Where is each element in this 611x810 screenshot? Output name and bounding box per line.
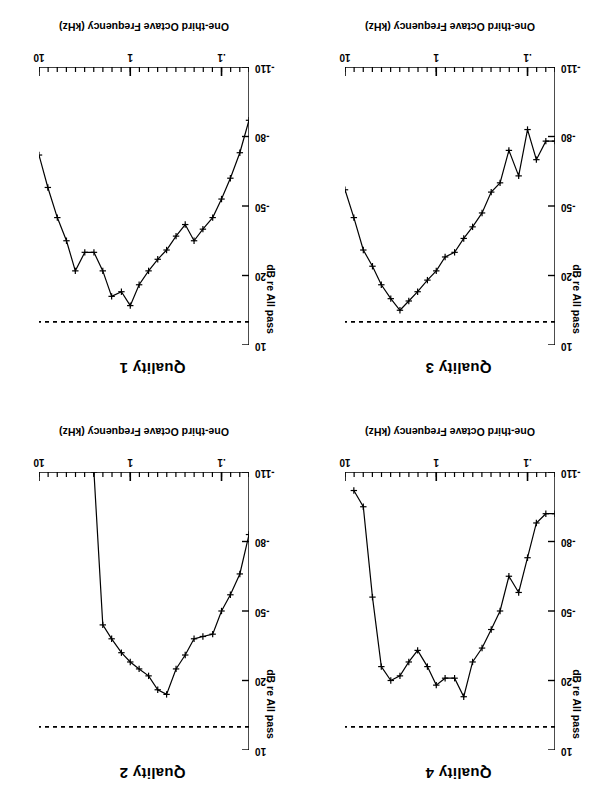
x-tick-label: 1 <box>416 457 456 468</box>
y-tick-label: 10 <box>255 341 305 352</box>
y-tick-label: -50 <box>255 202 305 213</box>
y-tick-label: 10 <box>255 746 305 757</box>
chart-panel-quality-1: Quality 1 dB re All pass One-third Octav… <box>0 0 305 405</box>
x-tick-label: 10 <box>325 52 365 63</box>
x-tick-label: 10 <box>325 457 365 468</box>
y-axis-label-quality-2: dB re All pass <box>265 624 277 784</box>
x-axis-label-quality-4: One-third Octave Frequency (kHz) <box>345 426 555 438</box>
y-axis-label-quality-4: dB re All pass <box>571 624 583 784</box>
plot-area-quality-3 <box>345 67 555 345</box>
panel-title-quality-1: Quality 1 <box>0 360 305 377</box>
chart-panel-quality-3: Quality 3 dB re All pass One-third Octav… <box>306 0 611 405</box>
axes-svg-quality-4 <box>345 472 555 750</box>
chart-panel-quality-4: Quality 4 dB re All pass One-third Octav… <box>306 405 611 810</box>
panel-title-quality-3: Quality 3 <box>306 360 611 377</box>
y-tick-label: -50 <box>561 202 611 213</box>
x-tick-label: 10 <box>19 457 59 468</box>
axes-svg-quality-3 <box>345 67 555 345</box>
x-tick-label: 1 <box>416 52 456 63</box>
y-tick-label: -110 <box>255 468 305 479</box>
y-tick-label: -50 <box>255 607 305 618</box>
x-tick-label: .1 <box>202 52 242 63</box>
y-tick-label: -110 <box>561 468 611 479</box>
x-tick-label: 1 <box>110 457 150 468</box>
x-axis-label-quality-1: One-third Octave Frequency (kHz) <box>39 21 249 33</box>
y-tick-label: -20 <box>255 272 305 283</box>
x-tick-label: .1 <box>508 457 548 468</box>
y-tick-label: -110 <box>561 63 611 74</box>
y-tick-label: -110 <box>255 63 305 74</box>
y-tick-label: 10 <box>561 341 611 352</box>
y-axis-label-quality-3: dB re All pass <box>571 219 583 379</box>
axes-svg-quality-1 <box>39 67 249 345</box>
x-tick-label: 1 <box>110 52 150 63</box>
y-tick-label: 10 <box>561 746 611 757</box>
panel-grid: Quality 1 dB re All pass One-third Octav… <box>0 0 611 810</box>
plot-area-quality-2 <box>39 472 249 750</box>
x-tick-label: .1 <box>508 52 548 63</box>
x-tick-label: .1 <box>202 457 242 468</box>
figure-root: Quality 1 dB re All pass One-third Octav… <box>0 0 611 810</box>
x-tick-label: 10 <box>19 52 59 63</box>
x-axis-label-quality-2: One-third Octave Frequency (kHz) <box>39 426 249 438</box>
y-tick-label: -20 <box>561 272 611 283</box>
y-tick-label: -80 <box>561 538 611 549</box>
y-tick-label: -20 <box>561 677 611 688</box>
y-tick-label: -20 <box>255 677 305 688</box>
chart-panel-quality-2: Quality 2 dB re All pass One-third Octav… <box>0 405 305 810</box>
plot-area-quality-4 <box>345 472 555 750</box>
plot-area-quality-1 <box>39 67 249 345</box>
y-tick-label: -50 <box>561 607 611 618</box>
panel-title-quality-4: Quality 4 <box>306 765 611 782</box>
y-tick-label: -80 <box>561 133 611 144</box>
y-axis-label-quality-1: dB re All pass <box>265 219 277 379</box>
axes-svg-quality-2 <box>39 472 249 750</box>
x-axis-label-quality-3: One-third Octave Frequency (kHz) <box>345 21 555 33</box>
y-tick-label: -80 <box>255 538 305 549</box>
panel-title-quality-2: Quality 2 <box>0 765 305 782</box>
y-tick-label: -80 <box>255 133 305 144</box>
